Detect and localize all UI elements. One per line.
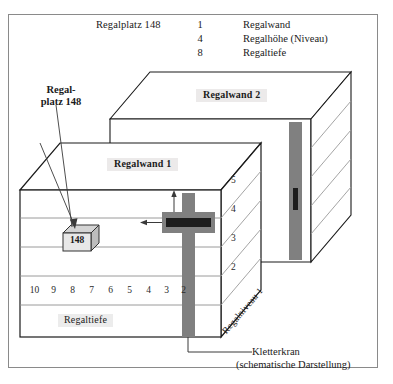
level-number-4: 4 — [231, 205, 236, 215]
level-number-3: 3 — [231, 234, 236, 244]
depth-number-4: 4 — [143, 286, 154, 296]
diagram-canvas: Regalplatz 148 1 Regalwand 4 Regalhöhe (… — [0, 0, 393, 384]
depth-number-6: 6 — [105, 286, 116, 296]
kletterkran-leader — [188, 337, 252, 352]
bin-number: 148 — [63, 236, 91, 246]
wall-label-regalwand-1: Regalwand 1 — [107, 158, 178, 171]
depth-number-7: 7 — [86, 286, 97, 296]
depth-number-8: 8 — [67, 286, 78, 296]
depth-axis-label: Regaltiefe — [58, 314, 113, 327]
level-number-5: 5 — [231, 176, 236, 186]
depth-number-9: 9 — [48, 286, 59, 296]
depth-number-2: 2 — [178, 286, 189, 296]
kletterkran-caption-subtitle: (schematische Darstellung) — [236, 358, 351, 371]
kletterkran-caption-title: Kletterkran — [252, 345, 300, 358]
bin-callout-line2: platz 148 — [41, 96, 82, 107]
depth-number-3: 3 — [161, 286, 172, 296]
depth-number-5: 5 — [124, 286, 135, 296]
crane1-fork — [166, 218, 211, 227]
bin-callout-line1: Regal- — [46, 84, 75, 95]
depth-number-10: 10 — [29, 286, 40, 296]
bin-callout-label: Regal- platz 148 — [28, 84, 94, 108]
crane2-fork — [293, 188, 298, 210]
level-number-2: 2 — [231, 263, 236, 273]
wall-label-regalwand-2: Regalwand 2 — [196, 89, 267, 102]
